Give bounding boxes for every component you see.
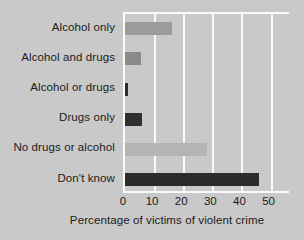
- category-label: No drugs or alcohol: [13, 133, 115, 163]
- bar: [125, 113, 142, 126]
- x-tick-label: 0: [120, 195, 126, 207]
- x-tick-label: 20: [175, 195, 188, 207]
- category-label: Alcohol only: [52, 12, 115, 42]
- bar-row: [125, 165, 291, 195]
- x-axis-ticks: 01020304050: [123, 193, 289, 213]
- bar: [125, 22, 172, 35]
- bar-row: [125, 14, 291, 44]
- x-tick-label: 50: [262, 195, 275, 207]
- category-label: Don't know: [57, 163, 115, 193]
- bar-row: [125, 135, 291, 165]
- x-axis-title: Percentage of victims of violent crime: [0, 214, 304, 226]
- category-axis-labels: Alcohol onlyAlcohol and drugsAlcohol or …: [0, 12, 119, 193]
- bar: [125, 143, 207, 156]
- category-label: Drugs only: [59, 103, 115, 133]
- x-tick-label: 30: [204, 195, 217, 207]
- bar-series: [125, 14, 289, 191]
- bar-row: [125, 74, 291, 104]
- bar: [125, 83, 128, 96]
- bar: [125, 173, 259, 186]
- x-axis-title-text: Percentage of victims of violent crime: [40, 214, 264, 226]
- bar-row: [125, 105, 291, 135]
- plot-area: [123, 12, 289, 193]
- x-tick-label: 10: [146, 195, 159, 207]
- x-tick-label: 40: [233, 195, 246, 207]
- category-label: Alcohol or drugs: [30, 72, 115, 102]
- bar-chart-figure: Alcohol onlyAlcohol and drugsAlcohol or …: [0, 0, 304, 240]
- category-label: Alcohol and drugs: [21, 42, 115, 72]
- bar: [125, 52, 141, 65]
- bar-row: [125, 44, 291, 74]
